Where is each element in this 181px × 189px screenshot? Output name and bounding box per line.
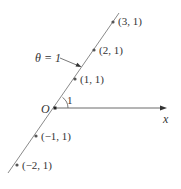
x-axis-arrow-icon	[160, 106, 167, 111]
point-neg2-1	[15, 163, 18, 166]
point-label: (−1, 1)	[41, 131, 71, 142]
theta-line	[8, 13, 119, 173]
point-1-1	[73, 77, 76, 80]
point-neg1-1	[34, 134, 37, 137]
point-label: (1, 1)	[80, 74, 104, 85]
x-axis-label: x	[163, 113, 168, 125]
point-label: (−2, 1)	[22, 160, 52, 171]
point-2-1	[92, 48, 95, 51]
point-label: (3, 1)	[118, 16, 142, 27]
point-3-1	[111, 20, 114, 23]
origin-point	[54, 107, 57, 110]
label-pointer-arrow-icon	[76, 63, 82, 67]
theta-label: θ = 1	[35, 52, 61, 64]
origin-label: O	[41, 103, 50, 115]
point-label: (2, 1)	[99, 45, 123, 56]
angle-label: 1	[67, 95, 73, 106]
label-pointer	[60, 58, 79, 66]
